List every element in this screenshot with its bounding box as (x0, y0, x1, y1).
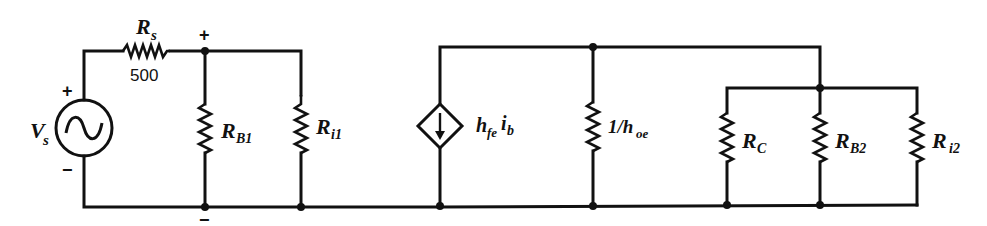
rb2-label: R (834, 128, 850, 153)
resistor-rc (721, 113, 733, 162)
sine-wave-icon (66, 117, 102, 138)
resistor-rb1 (199, 104, 211, 153)
rs-value: 500 (130, 66, 158, 85)
ri2-label: R (931, 128, 947, 153)
rc-label-sub: C (757, 141, 767, 156)
hoe-label: 1/h (608, 116, 633, 137)
zigzag-rc (721, 113, 733, 162)
input-plus-sign: + (199, 25, 210, 45)
resistor-ri2 (911, 113, 923, 162)
rc-label: R (741, 128, 757, 153)
node (589, 202, 597, 210)
rb1-label: R (220, 118, 236, 143)
zigzag-rb1 (199, 104, 211, 153)
ri1-label: R (315, 114, 331, 139)
rb1-label-sub: B1 (235, 131, 252, 146)
source-label-sub: s (42, 132, 49, 148)
input-minus-sign: − (199, 210, 210, 226)
zigzag-ri2 (911, 113, 923, 162)
wire-source-top (84, 51, 123, 100)
resistor-ri1 (295, 95, 307, 153)
dep-h-label: h (476, 114, 487, 136)
zigzag-rb2 (814, 113, 826, 162)
ri1-label-sub: i1 (331, 127, 342, 142)
dependent-current-source (418, 104, 462, 148)
wire-output-top (440, 47, 820, 104)
ri2-label-sub: i2 (949, 141, 960, 156)
node (589, 43, 597, 51)
resistor-rb2 (814, 113, 826, 162)
resistor-hoe (587, 102, 599, 151)
ac-voltage-source (56, 100, 112, 156)
node (723, 201, 731, 209)
rb2-label-sub: B2 (849, 141, 866, 156)
zigzag-rs (123, 45, 170, 57)
wire-load-top (727, 88, 917, 113)
rs-label: R (135, 14, 151, 39)
hoe-label-sub: oe (636, 126, 649, 141)
node (816, 84, 824, 92)
zigzag-ri1 (295, 95, 307, 153)
resistor-rs (123, 45, 170, 57)
wire-input-top (170, 51, 301, 95)
zigzag-hoe (587, 102, 599, 151)
circuit-diagram: + − V s R s 500 + − R B1 R i1 h fe i b 1… (0, 0, 987, 226)
dep-i-sub: b (507, 123, 514, 138)
dep-h-sub: fe (487, 125, 497, 140)
wire-bottom-rail (440, 205, 917, 207)
rs-label-sub: s (150, 27, 157, 43)
source-minus-sign: − (62, 160, 73, 180)
source-plus-sign: + (62, 81, 73, 101)
node (816, 201, 824, 209)
node (297, 203, 305, 211)
wire-source-bottom (84, 156, 440, 207)
node (201, 47, 209, 55)
node (436, 202, 444, 210)
